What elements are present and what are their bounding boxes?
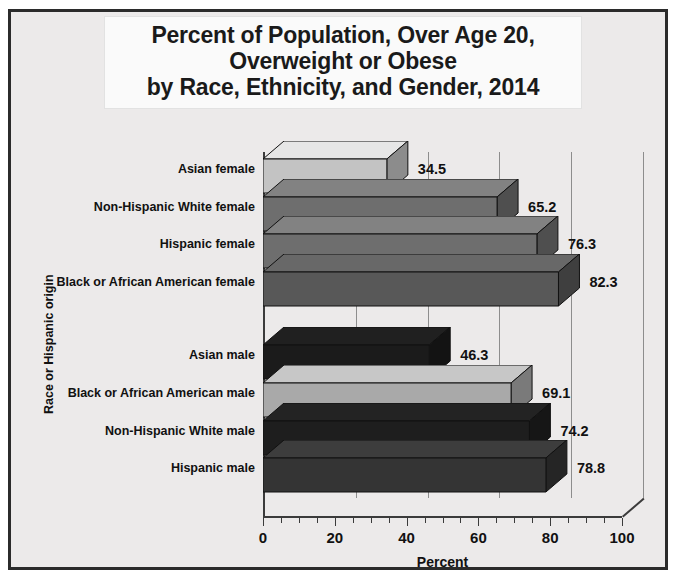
x-axis-title: Percent	[343, 554, 543, 570]
chart-screenshot: Percent of Population, Over Age 20, Over…	[0, 0, 676, 578]
chart-title-line-3: by Race, Ethnicity, and Gender, 2014	[109, 74, 577, 100]
chart-title-line-2: Overweight or Obese	[109, 48, 577, 74]
chart-title-line-1: Percent of Population, Over Age 20,	[109, 22, 577, 48]
chart-title: Percent of Population, Over Age 20, Over…	[104, 16, 582, 109]
y-axis-title: Race or Hispanic origin	[42, 274, 56, 414]
